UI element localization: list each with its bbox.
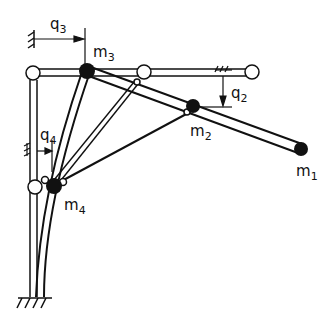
m1-label: m1 [296,162,318,183]
q4-label: q4 [40,126,57,147]
mass-m1 [294,142,308,156]
hinges [26,65,259,194]
q4-guide [24,143,30,156]
q2-arrow [200,76,232,107]
m2-label: m2 [190,122,212,143]
ground-support-bottom [17,298,52,308]
m3-label: m3 [93,43,115,64]
mass-m4 [46,178,62,194]
hinge-small-brace [134,79,140,85]
q2-label: q2 [231,84,248,105]
ground-support-top [28,30,34,48]
m4-label: m4 [64,196,86,217]
mass-m2 [186,99,200,113]
hinge-top-left [26,66,40,80]
brace-link [54,82,138,184]
mechanism-diagram: q3 q2 [0,0,327,326]
q3-label: q3 [50,15,67,36]
hinge-top-right [245,65,259,79]
hinge-left-lower [28,180,42,194]
hinge-top-middle [137,65,151,79]
link-m4-m2 [58,112,190,183]
mass-m3 [79,63,95,79]
